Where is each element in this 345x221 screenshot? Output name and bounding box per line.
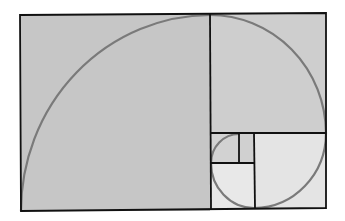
squares [20,14,326,211]
golden-spiral-diagram [0,0,345,221]
square-3 [254,133,326,208]
square-1 [20,15,210,211]
divider-main-vertical [210,14,211,210]
divider-vertical-2 [254,133,255,208]
square-6 [239,134,254,163]
